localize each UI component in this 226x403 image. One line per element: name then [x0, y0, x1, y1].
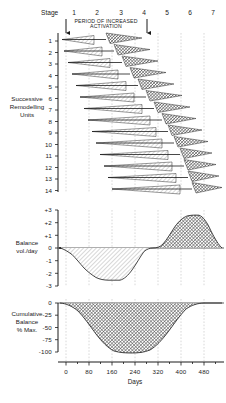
- remodelling-unit-row: [92, 125, 202, 137]
- middle-panel-axis-title: Balance vol./day: [16, 239, 39, 254]
- cumulative-area: [60, 303, 222, 353]
- middle-tick-m2: -2: [46, 270, 52, 277]
- x-axis: 0 80 160 240 320 400 480 Days: [58, 362, 224, 386]
- unit-label-1: 1: [49, 37, 53, 44]
- top-panel-unit-ticks: 1 2 3 4 5 6 7 8 9 10 11 12 13 1: [45, 37, 58, 194]
- middle-tick-m3: -3: [46, 282, 52, 289]
- remodelling-unit-row: [76, 79, 174, 91]
- bottom-tick-100: -100: [39, 348, 53, 355]
- x-tick-0: 0: [64, 368, 68, 375]
- top-title-line2: Remodelling: [10, 103, 45, 110]
- remodelling-unit-row: [68, 56, 158, 68]
- unit-label-11: 11: [46, 152, 53, 159]
- bottom-title-line1: Cumulative: [12, 310, 44, 317]
- middle-tick-p2: +2: [45, 219, 53, 226]
- remodelling-unit-row: [108, 171, 219, 183]
- panel-cumulative-balance: 0 -25 -50 -75 -100 Cumulative Balance % …: [12, 299, 224, 386]
- bottom-tick-25: -25: [42, 311, 52, 318]
- x-tick-160: 160: [107, 368, 118, 375]
- stage-header: Stage 1 2 3 4 5 6 7: [41, 9, 215, 17]
- stage-number-2: 2: [95, 9, 99, 16]
- middle-tick-p3: +3: [45, 206, 53, 213]
- remodelling-unit-row: [88, 114, 196, 126]
- bone-remodelling-figure: Stage 1 2 3 4 5 6 7 PERIOD OF INCREASED …: [0, 0, 226, 403]
- x-tick-80: 80: [85, 368, 93, 375]
- remodelling-unit-row: [80, 91, 182, 103]
- activation-period-banner: PERIOD OF INCREASED ACTIVATION: [66, 18, 147, 34]
- remodelling-unit-wedges: [62, 33, 222, 194]
- top-title-line1: Successive: [11, 95, 43, 102]
- remodelling-unit-row: [72, 68, 166, 80]
- remodelling-unit-row: [96, 137, 208, 149]
- balance-negative-area: [60, 248, 153, 280]
- banner-text-line2: ACTIVATION: [90, 23, 122, 29]
- bottom-panel-axis-title: Cumulative Balance % Max.: [12, 310, 44, 333]
- unit-label-4: 4: [49, 72, 53, 79]
- middle-title-line1: Balance: [16, 239, 39, 246]
- bottom-tick-75: -75: [42, 336, 52, 343]
- x-tick-320: 320: [153, 368, 164, 375]
- unit-label-10: 10: [45, 141, 52, 148]
- stage-number-5: 5: [165, 9, 169, 16]
- bottom-title-line2: Balance: [16, 318, 39, 325]
- unit-label-6: 6: [49, 95, 53, 102]
- x-axis-title: Days: [128, 378, 143, 386]
- stage-number-4: 4: [142, 9, 146, 16]
- bottom-panel-ticks: 0 -25 -50 -75 -100: [39, 299, 58, 355]
- remodelling-unit-row: [112, 183, 222, 195]
- unit-label-12: 12: [45, 164, 52, 171]
- panel-remodelling-units: 1 2 3 4 5 6 7 8 9 10 11 12 13 1: [10, 33, 222, 194]
- figure-canvas: Stage 1 2 3 4 5 6 7 PERIOD OF INCREASED …: [0, 0, 226, 403]
- stage-number-6: 6: [188, 9, 192, 16]
- panel-balance-vol-day: +3 +2 +1 0 -1 -2 -3 Balance vol./day: [16, 206, 224, 289]
- stage-number-1: 1: [72, 9, 76, 16]
- remodelling-unit-row: [62, 33, 142, 45]
- middle-title-line2: vol./day: [16, 247, 38, 254]
- unit-label-3: 3: [49, 60, 53, 67]
- middle-tick-zero: 0: [48, 244, 52, 251]
- unit-label-9: 9: [49, 129, 53, 136]
- unit-label-14: 14: [45, 187, 52, 194]
- x-tick-480: 480: [199, 368, 210, 375]
- top-panel-axis-title: Successive Remodelling Units: [10, 95, 45, 118]
- unit-label-8: 8: [49, 118, 53, 125]
- unit-label-2: 2: [49, 49, 53, 56]
- unit-label-5: 5: [49, 83, 53, 90]
- middle-tick-p1: +1: [45, 232, 53, 239]
- remodelling-unit-row: [84, 102, 190, 114]
- bottom-tick-50: -50: [42, 324, 52, 331]
- bottom-title-line3: % Max.: [17, 326, 38, 333]
- top-title-line3: Units: [20, 111, 34, 118]
- remodelling-unit-row: [104, 160, 216, 172]
- middle-tick-m1: -1: [46, 257, 52, 264]
- remodelling-unit-row: [100, 148, 212, 160]
- remodelling-unit-row: [64, 45, 150, 57]
- x-axis-ticks: [66, 362, 216, 366]
- x-tick-400: 400: [176, 368, 187, 375]
- stage-label: Stage: [41, 9, 59, 17]
- middle-panel-ticks: +3 +2 +1 0 -1 -2 -3: [45, 206, 58, 289]
- stage-number-3: 3: [119, 9, 123, 16]
- unit-label-13: 13: [45, 175, 52, 182]
- balance-origin-marker: [59, 247, 61, 249]
- unit-label-7: 7: [49, 106, 53, 113]
- x-tick-240: 240: [130, 368, 141, 375]
- stage-number-7: 7: [211, 9, 215, 16]
- bottom-tick-0: 0: [48, 299, 52, 306]
